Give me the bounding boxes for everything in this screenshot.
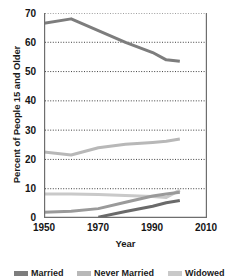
legend-item-widowed: Widowed [168,268,224,278]
chart-legend: Married Never Married Widowed [0,268,229,278]
legend-swatch-widowed [168,271,182,276]
legend-label-never-married: Never Married [94,268,154,278]
plot-area [44,13,207,218]
y-axis-tick-40: 40 [8,95,36,106]
legend-item-married: Married [14,268,64,278]
y-axis-tick-30: 30 [8,125,36,136]
legend-item-never-married: Never Married [77,268,154,278]
x-axis-title: Year [44,238,207,249]
legend-label-married: Married [31,268,64,278]
legend-swatch-married [14,271,28,276]
y-axis-tick-20: 20 [8,154,36,165]
x-axis-tick-2010: 2010 [186,222,226,233]
y-axis-tick-50: 50 [8,66,36,77]
data-lines [44,19,180,217]
legend-label-widowed: Widowed [185,268,224,278]
y-axis-title: Percent of People 15 and Older [11,20,22,210]
y-axis-tick-10: 10 [8,183,36,194]
x-axis-tick-1950: 1950 [24,222,64,233]
y-axis-tick-70: 70 [8,8,36,19]
series-line-married [44,19,180,61]
y-axis-tick-60: 60 [8,37,36,48]
series-line-separated [98,200,180,217]
gridlines [45,13,206,189]
x-axis-tick-1970: 1970 [78,222,118,233]
legend-swatch-never-married [77,271,91,276]
x-axis-tick-1990: 1990 [132,222,172,233]
series-line-never-married [44,139,180,155]
chart-figure: Percent of People 15 and Older 70 60 50 … [0,0,229,278]
